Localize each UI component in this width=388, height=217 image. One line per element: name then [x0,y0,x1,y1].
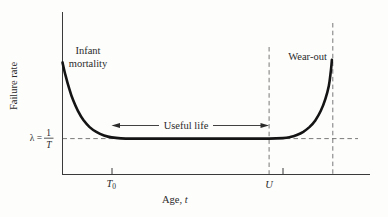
bathtub-curve-plot: Failure rate Infant mortality Useful lif… [0,0,388,217]
arrowhead-left-icon [112,123,121,128]
arrowhead-right-icon [261,123,270,128]
x-axis-label: Age, t [162,194,189,205]
lambda-fraction-numerator: 1 [46,128,51,138]
bathtub-curve-figure: Failure rate Infant mortality Useful lif… [0,0,388,217]
wear-out-label: Wear-out [288,51,327,62]
useful-life-label: Useful life [164,120,209,131]
u-tick-label: U [265,179,274,190]
infant-mortality-label-line1: Infant [75,45,100,56]
lambda-equation: λ = 1 T [30,128,54,151]
lambda-fraction-denominator: T [46,140,52,150]
t0-tick-label: T0 [107,178,117,192]
infant-mortality-label-line2: mortality [69,58,108,69]
y-axis-label: Failure rate [8,62,19,110]
lambda-equation-lhs: λ = [30,133,42,143]
